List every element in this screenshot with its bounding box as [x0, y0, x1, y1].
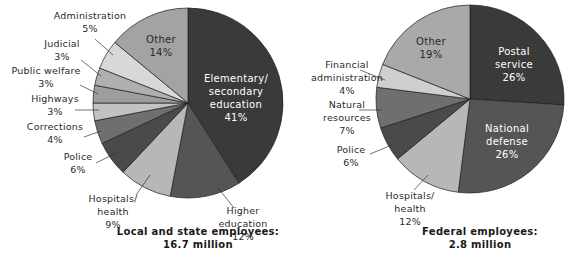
leader-line-police [370, 145, 392, 154]
slice-label-police: Police6% [337, 144, 366, 168]
chart-canvas: Elementary/secondaryeducation41%Highered… [0, 0, 574, 265]
slice-label-corrections: Corrections4% [27, 121, 83, 145]
pie-federal: Postalservice26%Nationaldefense26%Hospit… [311, 5, 564, 250]
chart-caption: Local and state employees:16.7 million [117, 226, 279, 250]
slice-label-hospitals-health: Hospitals/health9% [89, 193, 139, 230]
pie-local-state: Elementary/secondaryeducation41%Highered… [12, 8, 283, 250]
leader-line-judicial [81, 60, 101, 76]
chart-caption: Federal employees:2.8 million [422, 226, 538, 250]
slice-label-highways: Highways3% [31, 93, 79, 117]
slice-label-public-welfare: Public welfare3% [12, 65, 81, 89]
leader-line-administration [95, 39, 113, 55]
slice-label-hospitals-health: Hospitals/health12% [386, 190, 436, 227]
slice-label-administration: Administration5% [54, 10, 126, 34]
slice-label-police: Police6% [64, 151, 93, 175]
slice-label-financial-administration: Financialadministration4% [311, 59, 383, 96]
slice-label-natural-resources: Naturalresources7% [323, 99, 371, 136]
slice-label-judicial: Judicial3% [43, 38, 79, 62]
